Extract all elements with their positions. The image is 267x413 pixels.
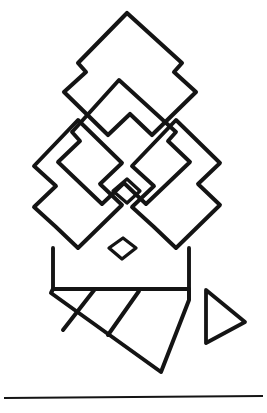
- figure-container: [0, 0, 267, 413]
- line-drawing-canvas: [0, 0, 267, 413]
